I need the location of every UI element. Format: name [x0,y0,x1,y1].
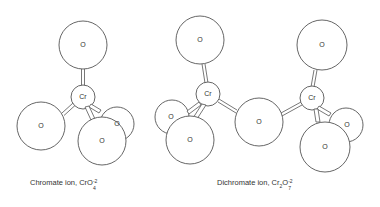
formula-cr: Cr [272,178,280,187]
label-o-back-right: O [344,121,350,128]
label-o-front: O [99,137,105,144]
dichromate-caption-text: Dichromate ion, [217,178,272,187]
label-o-back-left: O [168,113,174,120]
chromate-formula: CrO-24 [79,178,99,187]
bond-cr-o-top [82,69,85,86]
bond-cr-o-left [62,103,75,116]
chromate-caption: Chromate ion, CrO-24 [30,178,99,187]
label-o-top: O [80,41,86,48]
formula-sub: 4 [93,185,96,191]
label-o-front-left: O [187,136,193,143]
formula-charge: -2 [288,178,292,184]
ion-structures-diagram: O O O Cr O [0,0,380,207]
dichromate-structure: O O Cr O O O O Cr O [155,16,363,172]
dichromate-caption: Dichromate ion, Cr2O-27 [217,178,294,189]
formula-charge: -2 [93,178,97,184]
bond-crl-o-bridge [218,99,237,113]
label-cr-left: Cr [204,90,212,97]
dichromate-formula: Cr2O-27 [272,178,295,187]
label-o-back-right: O [114,120,120,127]
chromate-structure: O O O Cr O [17,21,134,165]
chromate-caption-text: Chromate ion, [30,178,79,187]
formula-o-sub: 7 [288,185,291,191]
label-cr: Cr [79,93,87,100]
label-o-front-right: O [322,143,328,150]
label-o-left: O [38,122,44,129]
label-o-top-left: O [197,36,203,43]
label-cr-right: Cr [308,94,316,101]
bond-crr-o-front-right [314,109,320,122]
bond-crl-o-top-left [202,64,208,83]
label-o-top-right: O [319,41,325,48]
bond-crr-o-bridge [281,102,302,116]
formula-base: CrO [79,178,93,187]
label-o-bridge: O [256,118,262,125]
bond-crr-o-top-right [311,70,317,87]
